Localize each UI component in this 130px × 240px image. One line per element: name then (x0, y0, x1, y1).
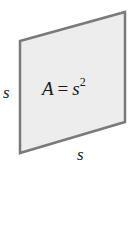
formula-base: s (72, 78, 79, 99)
bottom-side-label: s (77, 146, 84, 163)
left-side-label: s (3, 84, 10, 101)
formula-variable: A (42, 78, 54, 99)
formula-equals: = (58, 78, 69, 99)
area-formula: A=s2 (42, 79, 86, 98)
formula-exponent: 2 (80, 75, 86, 89)
